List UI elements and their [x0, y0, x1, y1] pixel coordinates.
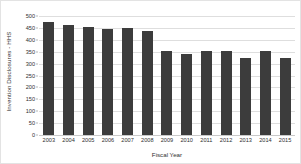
bar — [83, 27, 94, 135]
x-axis-tick-label: 2010 — [177, 137, 197, 143]
y-axis-tick-mark — [36, 123, 38, 124]
bar — [181, 54, 192, 135]
bar — [43, 22, 54, 135]
bar — [240, 58, 251, 135]
x-axis-tick-label: 2013 — [236, 137, 256, 143]
y-axis-tick-label: 300 — [13, 61, 35, 67]
bar-slot — [59, 16, 79, 135]
y-axis-tick-mark — [36, 39, 38, 40]
y-axis-tick-mark — [36, 87, 38, 88]
y-axis-tick-label: 250 — [13, 73, 35, 79]
bar-series — [39, 16, 295, 135]
y-axis-tick-label: 400 — [13, 37, 35, 43]
bar — [201, 51, 212, 135]
x-axis-tick-label: 2005 — [78, 137, 98, 143]
bar — [260, 51, 271, 135]
x-axis-tick-label: 2009 — [157, 137, 177, 143]
bar-slot — [137, 16, 157, 135]
gridline — [39, 135, 295, 136]
bar-slot — [236, 16, 256, 135]
y-axis-tick-label: 350 — [13, 49, 35, 55]
bar — [122, 28, 133, 135]
bar-slot — [39, 16, 59, 135]
y-axis-tick-labels: 500450400350300250200150100500 — [13, 16, 37, 135]
bar-slot — [118, 16, 138, 135]
plot-area — [39, 16, 295, 135]
y-axis-tick-label: 0 — [13, 132, 35, 138]
bar — [221, 51, 232, 135]
x-axis-tick-labels: 2003200420052006200720082009201020112012… — [39, 137, 295, 143]
x-axis-tick-label: 2012 — [216, 137, 236, 143]
y-axis-tick-mark — [36, 111, 38, 112]
bar-chart: Invention Disclosures - HHS 500450400350… — [0, 0, 301, 164]
x-axis-tick-label: 2003 — [39, 137, 59, 143]
y-axis-tick-label: 200 — [13, 84, 35, 90]
y-axis-tick-mark — [36, 75, 38, 76]
y-axis-tick-mark — [36, 51, 38, 52]
x-axis-tick-label: 2015 — [275, 137, 295, 143]
y-axis-tick-mark — [36, 63, 38, 64]
x-axis-title: Fiscal Year — [39, 151, 295, 158]
bar-slot — [78, 16, 98, 135]
y-axis-tick-mark — [36, 16, 38, 17]
bar — [102, 29, 113, 135]
x-axis-tick-label: 2008 — [137, 137, 157, 143]
x-axis-tick-label: 2007 — [118, 137, 138, 143]
bar — [63, 25, 74, 135]
y-axis-title-text: Invention Disclosures - HHS — [5, 31, 12, 111]
bar-slot — [275, 16, 295, 135]
y-axis-tick-label: 100 — [13, 108, 35, 114]
bar — [142, 31, 153, 135]
y-axis-tick-label: 50 — [13, 120, 35, 126]
x-axis-tick-label: 2011 — [197, 137, 217, 143]
y-axis-tick-label: 150 — [13, 96, 35, 102]
y-axis-tick-label: 500 — [13, 13, 35, 19]
y-axis-tick-mark — [36, 135, 38, 136]
y-axis-tick-label: 450 — [13, 25, 35, 31]
x-axis-tick-label: 2004 — [59, 137, 79, 143]
bar-slot — [256, 16, 276, 135]
bar-slot — [197, 16, 217, 135]
bar-slot — [177, 16, 197, 135]
y-axis-tick-mark — [36, 27, 38, 28]
bar-slot — [216, 16, 236, 135]
y-axis-tick-mark — [36, 99, 38, 100]
x-axis-tick-label: 2014 — [256, 137, 276, 143]
bar — [280, 58, 291, 135]
bar-slot — [157, 16, 177, 135]
x-axis-tick-label: 2006 — [98, 137, 118, 143]
bar-slot — [98, 16, 118, 135]
bar — [161, 51, 172, 135]
